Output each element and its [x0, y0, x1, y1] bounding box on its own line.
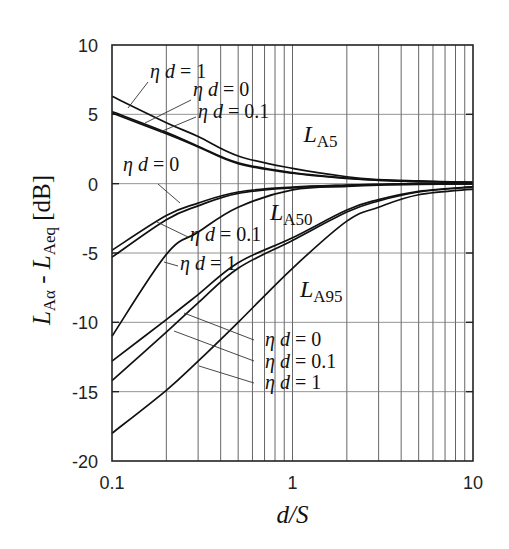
eta-d-label: η d = 0: [265, 328, 321, 351]
eta-d-label: η d = 0.1: [198, 100, 269, 123]
eta-d-label: η d = 0.1: [265, 350, 336, 373]
x-axis-label: d/S: [277, 501, 309, 528]
group-label-a50: LA50: [269, 199, 313, 229]
eta-d-label: η d = 0: [193, 78, 249, 101]
chart: 1050-5-10-15-20 0.1110 LA5LA50LA95 η d =…: [0, 0, 509, 549]
eta-d-label: η d = 1: [180, 252, 236, 275]
eta-d-label: η d = 0.1: [190, 223, 261, 246]
y-tick-label: -5: [82, 244, 98, 264]
eta-d-label: η d = 1: [265, 371, 321, 394]
x-tick-label: 0.1: [99, 473, 124, 493]
y-tick-label: 10: [78, 36, 98, 56]
y-tick-label: 5: [88, 105, 98, 125]
x-axis-title: d/S: [277, 501, 309, 528]
x-tick-labels: 0.1110: [99, 473, 483, 493]
grid-lines: [112, 45, 473, 461]
y-tick-label: -15: [72, 383, 98, 403]
y-axis-title: LAα - LAeq [dB]: [28, 175, 59, 326]
leader-line: [145, 100, 191, 123]
y-tick-labels: 1050-5-10-15-20: [72, 36, 98, 472]
y-axis-label: LAα - LAeq [dB]: [28, 175, 59, 326]
leader-line: [157, 222, 188, 237]
eta-d-label: η d = 0: [123, 153, 179, 176]
curve-group-labels: LA5LA50LA95: [269, 121, 343, 306]
leader-line: [128, 82, 148, 108]
y-tick-label: -20: [72, 452, 98, 472]
x-tick-label: 10: [463, 473, 483, 493]
group-label-a95: LA95: [299, 276, 343, 306]
leader-line: [160, 117, 196, 132]
y-tick-label: -10: [72, 313, 98, 333]
x-tick-label: 1: [287, 473, 297, 493]
leader-line: [158, 184, 180, 203]
leader-line: [199, 366, 254, 383]
y-tick-label: 0: [88, 175, 98, 195]
group-label-a5: LA5: [302, 121, 337, 151]
